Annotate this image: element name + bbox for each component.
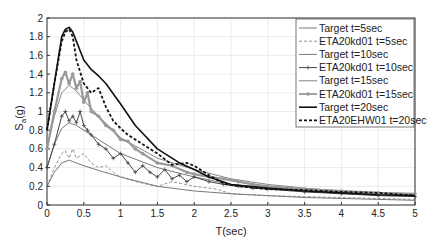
- x-tick-label: 2.5: [224, 208, 238, 219]
- x-tick-label: 4: [339, 208, 345, 219]
- x-tick-label: 4.5: [371, 208, 385, 219]
- x-tick-label: 0.5: [77, 208, 91, 219]
- legend-label: ETA20kd01 t=10sec: [319, 61, 413, 73]
- y-tick-label: 2: [37, 13, 43, 24]
- y-tick-label: 0.8: [29, 125, 43, 136]
- y-tick-label: 0.6: [29, 143, 43, 154]
- legend-label: Target t=15sec: [319, 74, 388, 86]
- x-tick-label: 5: [412, 208, 418, 219]
- y-tick-label: 1.6: [29, 50, 43, 61]
- y-tick-label: 1.8: [29, 31, 43, 42]
- response-spectrum-chart: 00.511.522.533.544.55 00.20.40.60.811.21…: [0, 0, 433, 244]
- legend-label: ETA20EHW01 t=20sec: [319, 114, 426, 126]
- legend-label: ETA20kd01 t=5sec: [319, 35, 407, 47]
- y-tick-label: 1.2: [29, 87, 43, 98]
- y-tick-label: 0.4: [29, 162, 43, 173]
- legend-label: ETA20kd01 t=15sec: [319, 88, 413, 100]
- svg-text:Sa(g): Sa(g): [13, 105, 28, 130]
- y-tick-label: 1.4: [29, 69, 43, 80]
- x-axis-label: T(sec): [215, 225, 246, 237]
- legend: Target t=5secETA20kd01 t=5secTarget t=10…: [296, 19, 426, 127]
- y-tick-label: 0: [37, 200, 43, 211]
- x-tick-label: 3.5: [298, 208, 312, 219]
- x-tick-label: 3: [265, 208, 271, 219]
- legend-label: Target t=5sec: [319, 22, 382, 34]
- legend-label: Target t=20sec: [319, 101, 388, 113]
- x-tick-label: 1.5: [150, 208, 164, 219]
- y-tick-label: 1: [37, 106, 43, 117]
- x-tick-label: 1: [118, 208, 124, 219]
- y-tick-label: 0.2: [29, 181, 43, 192]
- x-tick-label: 2: [191, 208, 197, 219]
- y-axis-label: Sa(g): [13, 105, 28, 130]
- legend-label: Target t=10sec: [319, 48, 388, 60]
- x-tick-label: 0: [44, 208, 50, 219]
